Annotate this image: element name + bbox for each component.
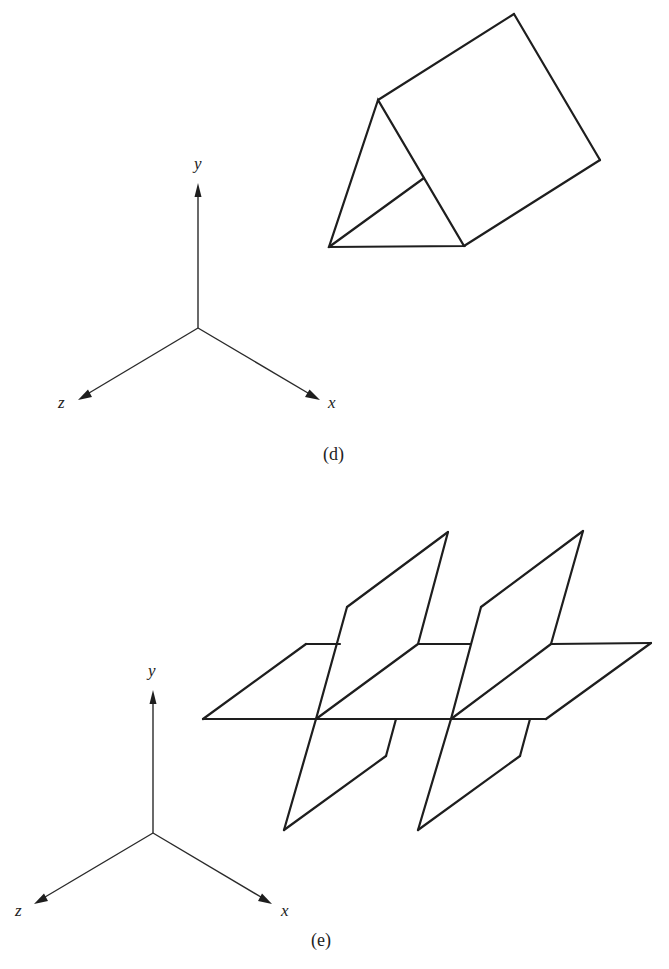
plane2-upper-left-edge — [451, 607, 481, 719]
x-axis-label: x — [327, 393, 336, 412]
plane1-upper-right-edge — [418, 532, 448, 644]
plane2-lower-left-edge — [418, 719, 451, 830]
axes-e: y z x — [14, 661, 289, 920]
plane2-upper-right-edge — [551, 531, 583, 644]
x-arrow-icon — [258, 894, 272, 905]
horizontal-plane-left-edge — [203, 644, 306, 719]
plane1-upper-left-edge — [316, 607, 347, 719]
z-axis — [84, 328, 198, 396]
vertical-plane-1 — [284, 532, 448, 830]
caption-d: (d) — [323, 444, 344, 465]
x-axis — [198, 328, 313, 396]
prism-top-edge — [378, 14, 514, 100]
x-axis-label: x — [280, 901, 289, 920]
plane1-lower-left-edge — [284, 719, 316, 830]
y-arrow-icon — [150, 690, 157, 704]
x-arrow-icon — [305, 390, 320, 401]
plane1-lower-right-edge — [386, 719, 396, 756]
plane1-bottom-edge — [284, 756, 386, 830]
prism-back-edge — [514, 14, 600, 160]
y-axis-label: y — [192, 154, 202, 173]
z-axis-label: z — [57, 393, 65, 412]
triangular-prism — [329, 14, 600, 247]
prism-bottom-edge — [464, 160, 600, 246]
panel-e: y z x (e) — [14, 531, 651, 951]
intersecting-planes — [203, 531, 651, 830]
horizontal-plane-back-edge-right — [551, 643, 651, 644]
z-axis — [40, 833, 153, 900]
caption-e: (e) — [311, 930, 331, 951]
prism-inner-edge — [329, 178, 424, 247]
y-axis-label: y — [146, 661, 156, 680]
plane2-lower-right-edge — [520, 719, 530, 756]
axes-d: y z x — [57, 154, 336, 412]
plane2-bottom-edge — [418, 756, 520, 830]
prism-front-face — [329, 100, 464, 247]
horizontal-plane-right-edge — [546, 643, 651, 719]
z-arrow-icon — [34, 894, 48, 905]
plane1-intersection-diagonal — [316, 644, 418, 719]
vertical-plane-2 — [418, 531, 583, 830]
z-arrow-icon — [78, 390, 92, 401]
figure-canvas: y z x (d) — [0, 0, 669, 969]
panel-d: y z x (d) — [57, 14, 600, 465]
plane1-top-edge — [347, 532, 448, 607]
plane2-top-edge — [481, 531, 583, 607]
plane2-intersection-diagonal — [451, 644, 551, 719]
z-axis-label: z — [14, 901, 22, 920]
x-axis — [153, 833, 266, 900]
y-arrow-icon — [195, 183, 202, 197]
